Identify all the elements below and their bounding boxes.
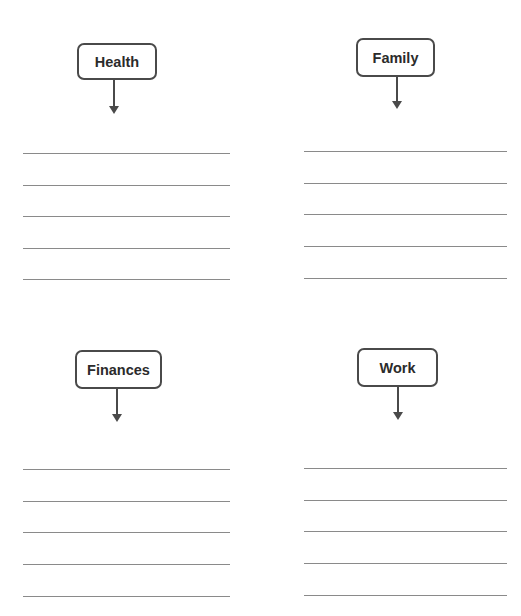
work-arrow-stem: [397, 387, 399, 413]
writing-line[interactable]: [23, 216, 230, 217]
writing-line[interactable]: [23, 185, 230, 186]
work-label-box: Work: [357, 348, 438, 387]
writing-line[interactable]: [304, 278, 507, 279]
writing-line[interactable]: [304, 183, 507, 184]
family-arrow-stem: [396, 77, 398, 102]
writing-line[interactable]: [304, 214, 507, 215]
writing-line[interactable]: [304, 595, 507, 596]
writing-line[interactable]: [304, 151, 507, 152]
health-label: Health: [95, 54, 139, 70]
health-label-box: Health: [77, 43, 157, 80]
writing-line[interactable]: [304, 531, 507, 532]
health-arrow-down-icon: [109, 106, 119, 114]
family-arrow-down-icon: [392, 101, 402, 109]
work-label: Work: [380, 360, 416, 376]
work-arrow-down-icon: [393, 412, 403, 420]
writing-line[interactable]: [23, 564, 230, 565]
family-label: Family: [373, 50, 419, 66]
finances-label-box: Finances: [75, 350, 162, 389]
writing-line[interactable]: [23, 469, 230, 470]
writing-line[interactable]: [23, 248, 230, 249]
writing-line[interactable]: [304, 563, 507, 564]
writing-line[interactable]: [304, 500, 507, 501]
writing-line[interactable]: [304, 246, 507, 247]
writing-line[interactable]: [23, 596, 230, 597]
writing-line[interactable]: [23, 153, 230, 154]
writing-line[interactable]: [23, 532, 230, 533]
finances-arrow-stem: [116, 389, 118, 415]
finances-arrow-down-icon: [112, 414, 122, 422]
finances-label: Finances: [87, 362, 150, 378]
writing-line[interactable]: [304, 468, 507, 469]
writing-line[interactable]: [23, 501, 230, 502]
family-label-box: Family: [356, 38, 435, 77]
health-arrow-stem: [113, 80, 115, 107]
writing-line[interactable]: [23, 279, 230, 280]
